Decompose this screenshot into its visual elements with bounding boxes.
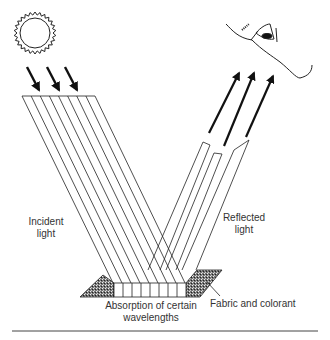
fabric-label-text: Fabric and colorant	[210, 298, 320, 310]
fabric-right	[186, 270, 222, 297]
incident-beam	[22, 96, 185, 283]
absorption-label: Absorption of certain wavelengths	[96, 300, 206, 324]
fabric-label: Fabric and colorant	[210, 298, 320, 310]
fabric-swatch	[80, 270, 222, 297]
incident-label-line1: Incident	[18, 216, 74, 228]
reflected-arrows	[209, 73, 273, 146]
fabric-leader	[207, 282, 220, 296]
reflected-ray-line	[148, 142, 203, 270]
reflected-arrow	[209, 73, 239, 133]
incident-arrow	[27, 67, 39, 90]
absorption-band	[114, 283, 186, 297]
incident-arrow	[47, 67, 59, 90]
diagram-canvas	[0, 0, 330, 340]
incident-label: Incident light	[18, 216, 74, 240]
reflected-channel-cap	[214, 153, 222, 154]
reflected-label-line1: Reflected	[212, 212, 276, 224]
incident-label-line2: light	[18, 228, 74, 240]
reflected-label-line2: light	[212, 224, 276, 236]
absorption-label-line2: wavelengths	[96, 312, 206, 324]
reflected-channel-cap	[203, 142, 210, 145]
reflected-arrow	[224, 73, 254, 146]
sun-icon	[14, 12, 56, 54]
incident-arrows	[27, 67, 77, 90]
reflected-label: Reflected light	[212, 212, 276, 236]
incident-ray-line	[59, 96, 150, 283]
reflected-ray-line	[160, 145, 210, 270]
incident-ray-line	[68, 96, 158, 283]
fabric-left	[80, 275, 114, 297]
reflected-beam	[148, 140, 249, 270]
eye-face-icon	[226, 24, 312, 78]
incident-ray-line	[49, 96, 140, 283]
incident-ray-line	[77, 96, 167, 283]
absorption-label-line1: Absorption of certain	[96, 300, 206, 312]
incident-arrow	[65, 67, 77, 90]
incident-ray-line	[40, 96, 131, 283]
